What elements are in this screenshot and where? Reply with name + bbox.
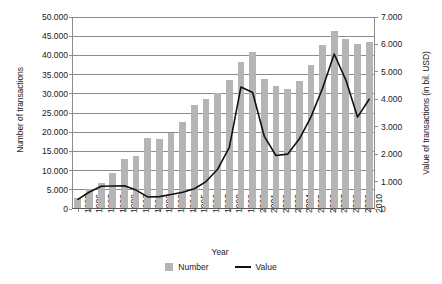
y-tick-mark-right xyxy=(375,126,378,127)
y-tick-label-left: 45.000 xyxy=(22,31,68,41)
x-tick-mark xyxy=(264,209,265,212)
y-tick-mark-left xyxy=(69,151,72,152)
x-axis-title: Year xyxy=(160,247,280,257)
legend-item[interactable]: Value xyxy=(235,262,277,272)
legend-line-swatch-icon xyxy=(235,266,251,268)
y-tick-label-left: 40.000 xyxy=(22,50,68,60)
y-tick-mark-right xyxy=(375,99,378,100)
x-tick-mark xyxy=(159,209,160,212)
y-tick-label-left: 5.000 xyxy=(22,185,68,195)
plot-area xyxy=(72,17,375,209)
y-tick-mark-right xyxy=(375,154,378,155)
x-tick-mark xyxy=(311,209,312,212)
y-tick-label-left: 20.000 xyxy=(22,127,68,137)
y-tick-label-left: 15.000 xyxy=(22,146,68,156)
y-tick-label-left: 10.000 xyxy=(22,166,68,176)
y-axis-left-ticks: 05.00010.00015.00020.00025.00030.00035.0… xyxy=(22,0,68,284)
x-tick-mark xyxy=(241,209,242,212)
x-tick-mark xyxy=(194,209,195,212)
y-tick-label-left: 35.000 xyxy=(22,70,68,80)
y-axis-left-line xyxy=(72,17,73,209)
legend-label: Number xyxy=(178,262,208,272)
y-tick-mark-right xyxy=(375,209,378,210)
line-series-value xyxy=(72,17,375,209)
y-tick-mark-left xyxy=(69,132,72,133)
x-tick-mark xyxy=(218,209,219,212)
x-tick-mark xyxy=(206,209,207,212)
x-tick-mark xyxy=(171,209,172,212)
y-tick-label-left: 50.000 xyxy=(22,12,68,22)
x-tick-mark xyxy=(124,209,125,212)
y-tick-label-right: 6.000 xyxy=(381,39,427,49)
y-tick-label-right: 0 xyxy=(381,204,427,214)
y-tick-label-right: 1.000 xyxy=(381,177,427,187)
x-tick-mark xyxy=(334,209,335,212)
y-tick-mark-left xyxy=(69,93,72,94)
value-line-path xyxy=(78,54,369,199)
y-tick-mark-left xyxy=(69,189,72,190)
x-tick-mark xyxy=(101,209,102,212)
y-tick-mark-right xyxy=(375,181,378,182)
x-tick-mark xyxy=(358,209,359,212)
y-tick-label-right: 3.000 xyxy=(381,122,427,132)
y-tick-mark-right xyxy=(375,71,378,72)
chart-container: Number of transactions Value of transact… xyxy=(0,0,442,284)
y-tick-label-right: 4.000 xyxy=(381,94,427,104)
y-tick-mark-left xyxy=(69,170,72,171)
x-axis-line xyxy=(72,208,375,209)
y-tick-mark-left xyxy=(69,74,72,75)
y-tick-label-left: 0 xyxy=(22,204,68,214)
x-tick-mark xyxy=(78,209,79,212)
x-tick-mark xyxy=(89,209,90,212)
y-tick-mark-left xyxy=(69,113,72,114)
y-tick-label-left: 25.000 xyxy=(22,108,68,118)
y-tick-label-left: 30.000 xyxy=(22,89,68,99)
x-tick-mark xyxy=(346,209,347,212)
y-tick-label-right: 5.000 xyxy=(381,67,427,77)
x-tick-mark xyxy=(148,209,149,212)
x-tick-mark xyxy=(113,209,114,212)
x-tick-mark xyxy=(136,209,137,212)
y-tick-mark-left xyxy=(69,17,72,18)
legend-bar-swatch-icon xyxy=(165,263,173,271)
y-tick-mark-left xyxy=(69,36,72,37)
x-tick-mark xyxy=(369,209,370,212)
x-tick-label: 2010 xyxy=(374,194,385,213)
y-axis-right-ticks: 01.0002.0003.0004.0005.0006.0007.000 xyxy=(381,0,427,284)
x-tick-mark xyxy=(288,209,289,212)
y-tick-label-right: 2.000 xyxy=(381,149,427,159)
y-tick-mark-right xyxy=(375,44,378,45)
x-tick-mark xyxy=(276,209,277,212)
y-tick-mark-left xyxy=(69,55,72,56)
legend-label: Value xyxy=(256,262,277,272)
x-tick-mark xyxy=(299,209,300,212)
y-tick-mark-left xyxy=(69,209,72,210)
x-tick-mark xyxy=(183,209,184,212)
x-tick-mark xyxy=(323,209,324,212)
x-tick-mark xyxy=(229,209,230,212)
y-tick-mark-right xyxy=(375,17,378,18)
chart-legend: NumberValue xyxy=(0,262,442,272)
y-tick-label-right: 7.000 xyxy=(381,12,427,22)
legend-item[interactable]: Number xyxy=(165,262,208,272)
x-tick-mark xyxy=(253,209,254,212)
